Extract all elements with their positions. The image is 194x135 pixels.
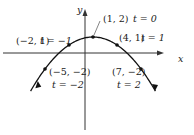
y-axis-arrow-icon [83,9,88,16]
label-t-neg1: t = −1 [40,35,72,46]
label-t0: t = 0 [133,13,157,24]
x-axis-label: x [178,53,184,64]
point-t1 [115,43,119,47]
point-t-neg2 [43,67,47,71]
y-axis-label: y [76,4,83,15]
parametric-curve-diagram: y x (1, 2) t = 0 (4, 1) t = 1 (−2, 1) t … [0,0,194,135]
label-t2: t = 2 [117,79,141,90]
label-coord-t-neg2: (−5, −2) [49,66,90,77]
label-t1: t = 1 [141,32,165,43]
label-coord-t2: (7, −2) [112,66,146,77]
label-coord-t0: (1, 2) [103,13,129,24]
leader-line [94,21,100,35]
label-t-neg2: t = −2 [52,79,84,90]
point-t0 [91,35,95,39]
x-axis-arrow-icon [157,51,164,56]
